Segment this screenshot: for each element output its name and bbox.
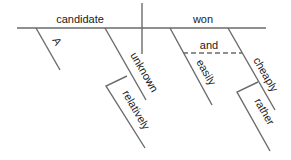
modifier-word-easily: easily — [194, 57, 219, 88]
modifier-word-rather: rather — [252, 96, 277, 127]
subject-word: candidate — [56, 13, 104, 25]
modifier-word-relatively: relatively — [120, 88, 152, 132]
verb-word: won — [192, 13, 213, 25]
conjunction-word: and — [200, 39, 218, 51]
modifier-word-a: A — [50, 35, 64, 48]
modifier-word-unknown: unknown — [128, 50, 160, 94]
sentence-diagram: candidate won A unknown relatively easil… — [0, 0, 291, 160]
modifier-word-cheaply: cheaply — [251, 55, 281, 94]
modifier-line-a — [36, 28, 60, 70]
